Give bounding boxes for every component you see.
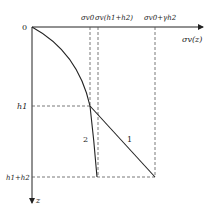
origin-label: 0 <box>22 23 27 32</box>
curve-1 <box>90 106 155 177</box>
stress-curve-upper <box>32 27 90 106</box>
label-sigma-v0-plus: σv0+γh2 <box>144 14 177 22</box>
stress-depth-diagram: 0 σv(z) z σv0 σv(h1+h2) σv0+γh2 h1 h1+h2… <box>0 0 212 213</box>
label-h1h2: h1+h2 <box>6 174 30 182</box>
x-axis-label: σv(z) <box>182 35 202 44</box>
label-sigma-v0: σv0 <box>81 14 95 22</box>
label-h1: h1 <box>17 102 27 111</box>
z-axis-label: z <box>35 196 41 205</box>
curve-2-label: 2 <box>83 135 88 144</box>
label-sigma-v-h1h2: σv(h1+h2) <box>95 14 133 22</box>
curve-2 <box>90 106 97 177</box>
curve-1-label: 1 <box>127 135 132 144</box>
